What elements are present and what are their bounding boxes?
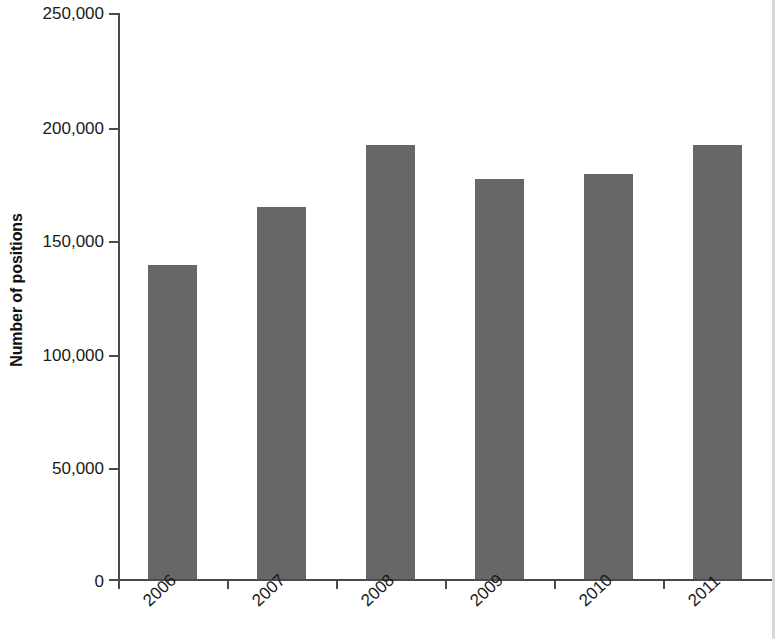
- bar-2011: [693, 145, 742, 579]
- y-axis-line: [118, 13, 120, 581]
- bar-chart: Number of positions 250,000 200,000 150,…: [0, 0, 775, 639]
- y-axis-tick-labels: 250,000 200,000 150,000 100,000 50,000 0: [0, 0, 104, 639]
- bar-2007: [257, 207, 306, 579]
- y-tick-50000: [109, 468, 118, 470]
- y-tick-label-250000: 250,000: [43, 5, 104, 22]
- y-tick-label-200000: 200,000: [43, 120, 104, 137]
- y-tick-label-0: 0: [95, 573, 104, 590]
- y-tick-label-50000: 50,000: [52, 460, 104, 477]
- bar-2010: [584, 174, 633, 579]
- y-tick-0: [109, 579, 118, 581]
- bar-2009: [475, 179, 524, 579]
- y-tick-250000: [109, 13, 118, 15]
- y-tick-label-100000: 100,000: [43, 347, 104, 364]
- bar-2006: [148, 265, 197, 579]
- bar-2008: [366, 145, 415, 579]
- plot-area: [118, 13, 773, 581]
- x-axis-tick-labels: 2006 2007 2008 2009 2010 2011: [118, 581, 773, 639]
- y-tick-label-150000: 150,000: [43, 233, 104, 250]
- y-tick-100000: [109, 355, 118, 357]
- y-tick-200000: [109, 128, 118, 130]
- y-tick-150000: [109, 241, 118, 243]
